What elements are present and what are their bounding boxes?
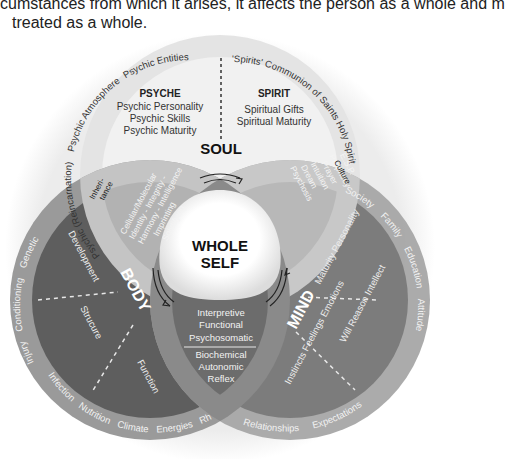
svg-text:Functional: Functional xyxy=(199,319,243,330)
spirit-title: SPIRIT xyxy=(258,88,290,99)
psyche-title: PSYCHE xyxy=(139,88,180,99)
spirit-item: Spiritual Maturity xyxy=(237,116,311,127)
svg-text:Autonomic: Autonomic xyxy=(199,361,244,372)
svg-text:Interpretive: Interpretive xyxy=(197,307,245,318)
svg-text:Psychosomatic: Psychosomatic xyxy=(189,332,253,343)
psyche-item: Psychic Personality xyxy=(117,101,204,112)
soul-title: SOUL xyxy=(200,140,242,157)
whole-self-line2: SELF xyxy=(201,254,239,271)
svg-text:Reflex: Reflex xyxy=(208,373,235,384)
whole-self-line1: WHOLE xyxy=(192,237,248,254)
svg-text:Biochemical: Biochemical xyxy=(195,349,246,360)
spirit-item: Spiritual Gifts xyxy=(244,104,303,115)
psyche-item: Psychic Maturity xyxy=(124,125,197,136)
psyche-item: Psychic Skills xyxy=(130,113,191,124)
